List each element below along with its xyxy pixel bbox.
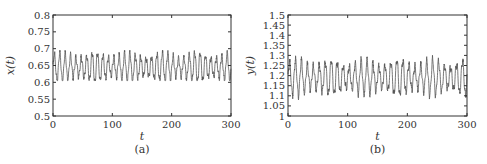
y-tick-label: 1.35 (263, 40, 285, 51)
y-tick-label: 1.5 (269, 10, 285, 21)
subfigure-caption: (a) (134, 143, 149, 156)
y-tick-label: 1.2 (269, 70, 285, 81)
x-tick-label: 0 (285, 119, 291, 130)
x-tick-label: 100 (103, 119, 122, 130)
series-line (288, 55, 467, 100)
chart-b: 010020030011.051.11.151.21.251.31.351.41… (244, 0, 487, 164)
x-tick-label: 300 (221, 119, 240, 130)
series-line (53, 50, 231, 80)
x-tick-label: 200 (398, 119, 417, 130)
x-axis-label: t (140, 130, 145, 143)
y-tick-label: 1.1 (269, 90, 285, 101)
y-axis-label: x(t) (4, 56, 17, 75)
y-tick-label: 1.05 (263, 100, 285, 111)
y-tick-label: 0.75 (28, 26, 50, 37)
x-tick-label: 100 (338, 119, 357, 130)
y-tick-label: 0.55 (28, 94, 50, 105)
y-tick-label: 0.7 (34, 43, 50, 54)
subfigure-caption: (b) (370, 143, 386, 156)
y-tick-label: 1.4 (269, 30, 285, 41)
chart-a: 01002003000.50.550.60.650.70.750.8tx(t)(… (0, 0, 243, 164)
y-tick-label: 1.45 (263, 20, 285, 31)
y-tick-label: 0.6 (34, 77, 50, 88)
y-axis-label: y(t) (244, 56, 257, 76)
panel-a: 01002003000.50.550.60.650.70.750.8tx(t)(… (0, 0, 243, 164)
plot-frame (288, 15, 467, 116)
x-tick-label: 200 (162, 119, 181, 130)
x-tick-label: 300 (457, 119, 476, 130)
y-tick-label: 0.8 (34, 10, 50, 21)
y-tick-label: 1 (279, 111, 285, 122)
y-tick-label: 0.5 (34, 111, 50, 122)
x-axis-label: t (375, 130, 380, 143)
y-tick-label: 0.65 (28, 60, 50, 71)
x-tick-label: 0 (50, 119, 56, 130)
y-tick-label: 1.25 (263, 60, 285, 71)
y-tick-label: 1.3 (269, 50, 285, 61)
y-tick-label: 1.15 (263, 80, 285, 91)
panel-b: 010020030011.051.11.151.21.251.31.351.41… (244, 0, 487, 164)
